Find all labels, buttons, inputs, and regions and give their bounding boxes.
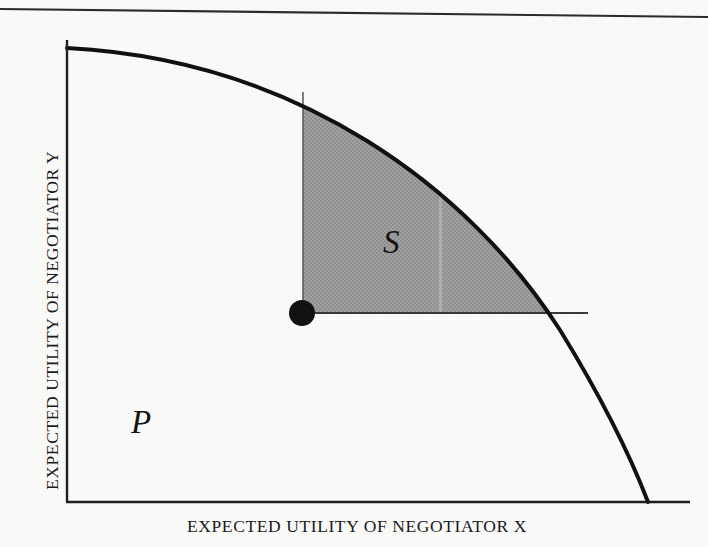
feasible-set-label: P bbox=[131, 404, 151, 441]
y-axis-title: EXPECTED UTILITY OF NEGOTIATOR Y bbox=[42, 151, 63, 490]
bargaining-set-label: S bbox=[383, 224, 400, 261]
bargaining-diagram-svg bbox=[0, 0, 708, 547]
disagreement-point bbox=[289, 300, 315, 326]
x-axis-title: EXPECTED UTILITY OF NEGOTIATOR X bbox=[0, 516, 708, 537]
page-rule bbox=[0, 9, 708, 17]
figure-page: S P EXPECTED UTILITY OF NEGOTIATOR X EXP… bbox=[0, 0, 708, 547]
bargaining-set-region bbox=[303, 60, 703, 313]
